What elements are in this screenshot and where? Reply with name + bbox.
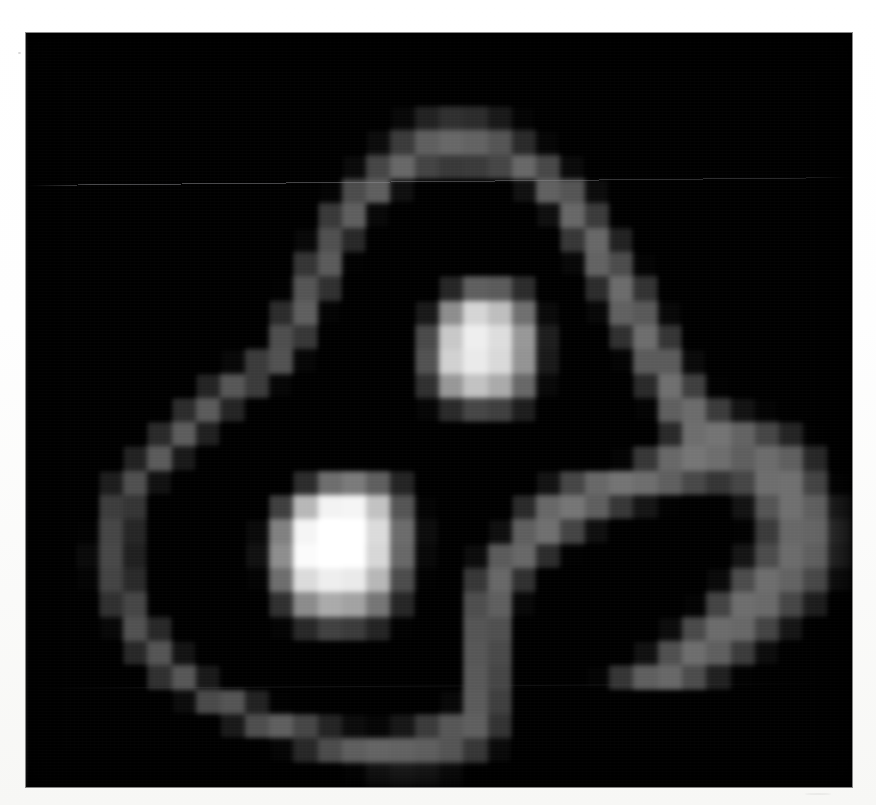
heatmap-cell [512,349,536,373]
heatmap-cell [803,228,827,252]
heatmap-cell [269,617,293,641]
heatmap-cell [706,738,730,762]
heatmap-cell [99,641,123,665]
heatmap-cell [463,57,487,81]
heatmap-cell [26,495,50,519]
heatmap-cell [779,252,803,276]
heatmap-cell [293,568,317,592]
heatmap-cell [731,690,755,714]
heatmap-cell [366,714,390,738]
heatmap-cell [269,252,293,276]
heatmap-cell [123,301,147,325]
heatmap-cell [123,179,147,203]
heatmap-cell [318,544,342,568]
heatmap-cell [488,106,512,130]
heatmap-cell [220,495,244,519]
heatmap-cell [172,82,196,106]
heatmap-cell [609,203,633,227]
heatmap-cell [803,714,827,738]
heatmap-cell [245,374,269,398]
heatmap-cell [439,33,463,57]
heatmap-cell [755,325,779,349]
heatmap-cell [196,203,220,227]
heatmap-cell [342,641,366,665]
heatmap-cell [439,276,463,300]
heatmap-cell [415,203,439,227]
heatmap-cell [609,495,633,519]
heatmap-cell [828,568,852,592]
heatmap-cell [828,714,852,738]
heatmap-cell [269,690,293,714]
heatmap-cell [147,82,171,106]
heatmap-cell [755,398,779,422]
heatmap-cell [512,641,536,665]
heatmap-cell [512,228,536,252]
heatmap-cell [560,519,584,543]
heatmap-cell [50,155,74,179]
heatmap-cell [50,617,74,641]
heatmap-cell [682,203,706,227]
heatmap-cell [488,568,512,592]
heatmap-cell [439,544,463,568]
heatmap-cell [731,617,755,641]
heatmap-cell [293,495,317,519]
heatmap-cell [536,106,560,130]
heatmap-cell [755,714,779,738]
heatmap-cell [342,57,366,81]
heatmap-cell [560,82,584,106]
heatmap-cell [293,422,317,446]
heatmap-cell [269,33,293,57]
heatmap-cell [366,203,390,227]
heatmap-cell [585,203,609,227]
heatmap-cell [147,495,171,519]
heatmap-cell [318,155,342,179]
heatmap-cell [536,446,560,470]
heatmap-cell [755,179,779,203]
heatmap-cell [585,252,609,276]
heatmap-cell [196,155,220,179]
heatmap-cell [488,641,512,665]
heatmap-cell [123,398,147,422]
heatmap-cell [488,228,512,252]
heatmap-cell [633,228,657,252]
heatmap-cell [172,33,196,57]
heatmap-cell [803,495,827,519]
heatmap-cell [706,228,730,252]
heatmap-cell [706,155,730,179]
heatmap-cell [50,568,74,592]
heatmap-cell [731,130,755,154]
heatmap-cell [779,763,803,787]
heatmap-cell [755,33,779,57]
heatmap-cell [658,179,682,203]
heatmap-cell [488,57,512,81]
heatmap-cell [99,228,123,252]
heatmap-cell [682,398,706,422]
heatmap-cell [50,398,74,422]
heatmap-cell [536,641,560,665]
heatmap-cell [488,592,512,616]
heatmap-cell [755,495,779,519]
heatmap-cell [439,495,463,519]
heatmap-cell [342,471,366,495]
heatmap-cell [342,349,366,373]
heatmap-cell [318,252,342,276]
heatmap-cell [293,641,317,665]
heatmap-cell [147,374,171,398]
heatmap-cell [75,252,99,276]
heatmap-cell [560,179,584,203]
heatmap-cell [245,398,269,422]
heatmap-cell [463,495,487,519]
heatmap-cell [463,82,487,106]
heatmap-cell [293,738,317,762]
heatmap-cell [803,325,827,349]
heatmap-cell [75,276,99,300]
heatmap-cell [731,592,755,616]
heatmap-cell [50,203,74,227]
heatmap-cell [220,763,244,787]
heatmap-cell [26,763,50,787]
heatmap-cell [172,228,196,252]
heatmap-cell [220,422,244,446]
heatmap-cell [828,422,852,446]
heatmap-cell [439,130,463,154]
heatmap-cell [560,617,584,641]
